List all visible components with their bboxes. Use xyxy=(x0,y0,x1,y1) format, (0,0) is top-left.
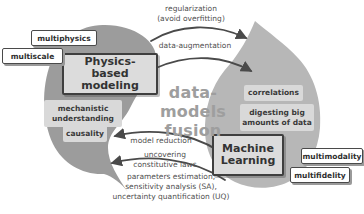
mechanistic-understanding-text: mechanistic understanding xyxy=(46,104,120,123)
regularization-line1: regularization xyxy=(140,4,242,14)
correlations-text: correlations xyxy=(248,88,299,97)
multiscale-text: multiscale xyxy=(11,52,55,61)
constitutive-laws-label: uncovering constitutive laws xyxy=(120,150,210,170)
multifidelity-tag: multifidelity xyxy=(290,167,350,183)
correlations-label: correlations xyxy=(244,85,303,101)
parameters-estimation-label: parameters estimation, sensitivity analy… xyxy=(106,172,236,201)
multifidelity-text: multifidelity xyxy=(294,171,346,180)
multiscale-tag: multiscale xyxy=(2,48,63,64)
constitutive-laws-line2: constitutive laws xyxy=(120,160,210,170)
center-title-line1: data-models xyxy=(143,84,243,122)
regularization-label: regularization (avoid overfitting) xyxy=(140,4,242,24)
data-augmentation-text: data-augmentation xyxy=(146,41,244,51)
multiphysics-text: multiphysics xyxy=(37,34,90,43)
fusion-diagram: Physics-based modeling Machine Learning … xyxy=(0,0,364,214)
arrow-regularization xyxy=(151,27,246,41)
parameters-line3: uncertainty quantification (UQ) xyxy=(106,192,236,202)
digesting-data-label: digesting big amounts of data xyxy=(240,104,314,131)
multiphysics-tag: multiphysics xyxy=(31,30,97,46)
model-reduction-label: model reduction xyxy=(118,136,204,146)
constitutive-laws-line1: uncovering xyxy=(120,150,210,160)
parameters-line2: sensitivity analysis (SA), xyxy=(106,182,236,192)
parameters-line1: parameters estimation, xyxy=(106,172,236,182)
data-augmentation-label: data-augmentation xyxy=(146,41,244,51)
regularization-line2: (avoid overfitting) xyxy=(140,14,242,24)
multimodality-text: multimodality xyxy=(303,152,362,161)
machine-learning-label: Machine Learning xyxy=(216,143,280,168)
digesting-data-text: digesting big amounts of data xyxy=(242,108,312,127)
model-reduction-text: model reduction xyxy=(118,136,204,146)
causality-label: causality xyxy=(63,125,107,142)
mechanistic-understanding-label: mechanistic understanding xyxy=(44,100,122,127)
causality-text: causality xyxy=(66,129,104,138)
physics-modeling-label: Physics-based modeling xyxy=(66,56,154,93)
multimodality-tag: multimodality xyxy=(301,148,363,164)
center-title: data-models fusion xyxy=(143,84,243,141)
